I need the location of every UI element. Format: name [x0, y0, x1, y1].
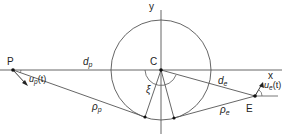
label-rho-e: ρe — [219, 104, 230, 116]
point-C — [159, 68, 163, 72]
point-E — [253, 94, 257, 98]
rho-e-line — [174, 96, 255, 118]
e-angle-arc — [259, 90, 262, 96]
label-rho-p: ρp — [91, 101, 102, 114]
point-P — [11, 68, 15, 72]
label-u-p: up(t) — [29, 74, 46, 86]
label-y-axis: y — [149, 1, 154, 12]
label-d-p: dp — [83, 56, 93, 69]
label-P: P — [7, 56, 14, 67]
label-C: C — [150, 56, 157, 67]
tangent-point-left — [143, 115, 146, 118]
label-u-e: ue(t) — [264, 80, 281, 91]
pursuit-evasion-diagram: P C E y x ξ dp de ρp ρe up(t) ue(t) — [0, 0, 288, 134]
radius-right — [161, 70, 174, 118]
label-xi: ξ — [146, 84, 151, 96]
label-E: E — [246, 103, 253, 114]
d-e-line — [161, 70, 255, 96]
tangent-point-right — [172, 116, 175, 119]
label-d-e: de — [218, 75, 228, 87]
